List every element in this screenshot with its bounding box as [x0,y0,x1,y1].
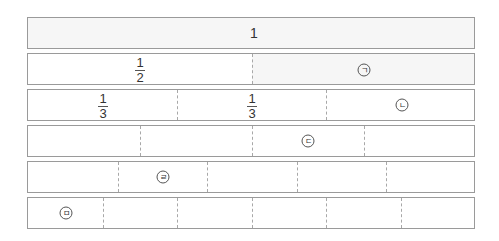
divider [326,90,327,120]
divider [252,198,253,228]
strip-thirds: 1 3 1 3 ㄴ [27,89,475,121]
divider [140,126,141,156]
label-one: 1 [250,26,258,40]
strip-halves: 1 2 ㄱ [27,53,475,85]
marker-mieum: ㅁ [60,207,73,220]
fraction-one-third-2: 1 3 [247,93,257,120]
divider [252,54,253,84]
divider [326,198,327,228]
divider [297,162,298,192]
marker-digeut: ㄷ [302,135,315,148]
divider [401,198,402,228]
marker-nieun: ㄴ [396,99,409,112]
divider [252,126,253,156]
divider [386,162,387,192]
fraction-one-third-1: 1 3 [98,93,108,120]
strip-whole: 1 [27,17,475,49]
fraction-one-half: 1 2 [135,57,145,84]
divider [364,126,365,156]
strip-sixths: ㅁ [27,197,475,229]
marker-rieul: ㄹ [157,171,170,184]
divider [118,162,119,192]
strip-quarters: ㄷ [27,125,475,157]
strip-fifths: ㄹ [27,161,475,193]
divider [177,198,178,228]
marker-giyeok: ㄱ [358,64,371,77]
divider [103,198,104,228]
divider [177,90,178,120]
divider [207,162,208,192]
